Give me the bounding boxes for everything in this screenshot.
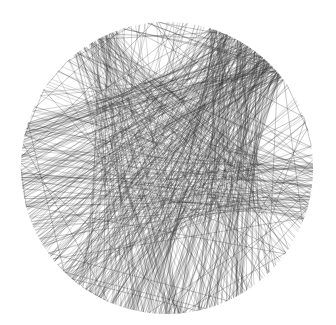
string-art-canvas: [0, 0, 336, 325]
